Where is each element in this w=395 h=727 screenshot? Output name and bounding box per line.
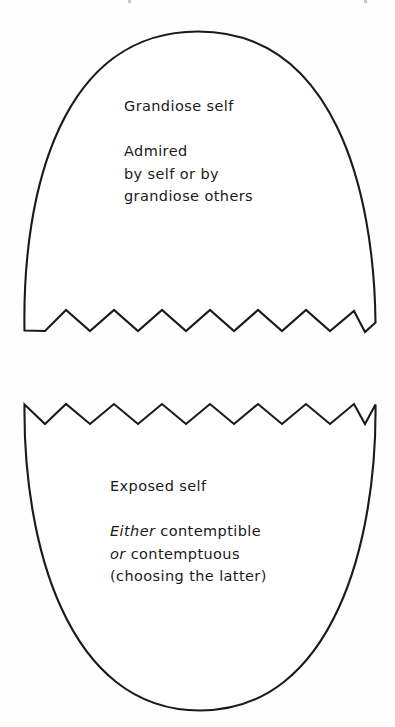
figure-root: Grandiose self Admired by self or by gra… <box>0 0 395 727</box>
grandiose-self-shell-outline <box>24 32 375 333</box>
exposed-self-shell-outline <box>24 404 375 711</box>
shell-diagram-svg <box>0 0 395 727</box>
